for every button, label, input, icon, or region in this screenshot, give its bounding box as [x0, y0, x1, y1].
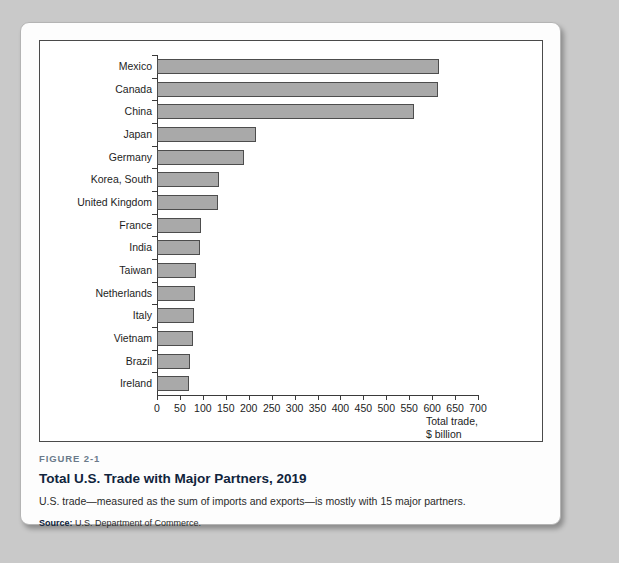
x-axis-tick-label: 100 — [194, 402, 212, 414]
chart-frame: MexicoCanadaChinaJapanGermanyKorea, Sout… — [39, 40, 543, 442]
bar-row: United Kingdom — [40, 191, 542, 214]
bar-category-label: Germany — [40, 152, 152, 163]
bar-row: Mexico — [40, 55, 542, 78]
x-axis-tick — [295, 395, 296, 400]
x-axis-tick — [203, 395, 204, 400]
y-axis-tick — [152, 214, 157, 215]
bar — [157, 172, 219, 187]
bar-chart-plot: MexicoCanadaChinaJapanGermanyKorea, Sout… — [40, 41, 542, 441]
y-axis-tick — [152, 168, 157, 169]
x-axis-tick — [180, 395, 181, 400]
x-axis-tick-label: 600 — [423, 402, 441, 414]
bar — [157, 218, 201, 233]
x-axis-title-line-2: $ billion — [426, 428, 478, 441]
x-axis-tick — [455, 395, 456, 400]
figure-caption: FIGURE 2-1 Total U.S. Trade with Major P… — [39, 453, 543, 528]
bar-category-label: Netherlands — [40, 288, 152, 299]
x-axis-tick — [340, 395, 341, 400]
bar-row: India — [40, 236, 542, 259]
x-axis-tick-label: 700 — [469, 402, 487, 414]
figure-title: Total U.S. Trade with Major Partners, 20… — [39, 471, 543, 486]
x-axis-tick — [386, 395, 387, 400]
bar — [157, 150, 244, 165]
bar — [157, 240, 200, 255]
y-axis-tick — [152, 372, 157, 373]
bar-row: Germany — [40, 146, 542, 169]
bar — [157, 308, 194, 323]
y-axis-tick — [152, 123, 157, 124]
bar-row: Canada — [40, 78, 542, 101]
x-axis-tick — [157, 395, 158, 400]
figure-description: U.S. trade—measured as the sum of import… — [39, 495, 543, 507]
figure-number: FIGURE 2-1 — [39, 453, 543, 464]
x-axis-tick-label: 0 — [154, 402, 160, 414]
bar-row: Ireland — [40, 372, 542, 395]
bar — [157, 331, 193, 346]
bar-category-label: Brazil — [40, 356, 152, 367]
bar — [157, 127, 256, 142]
x-axis-tick-label: 350 — [309, 402, 327, 414]
bar — [157, 82, 438, 97]
bar — [157, 286, 195, 301]
y-axis-tick — [152, 146, 157, 147]
x-axis-tick-label: 250 — [263, 402, 281, 414]
bar-row: Italy — [40, 304, 542, 327]
x-axis-tick-label: 550 — [400, 402, 418, 414]
figure-source-label: Source: — [39, 518, 73, 528]
figure-card: MexicoCanadaChinaJapanGermanyKorea, Sout… — [20, 22, 561, 525]
x-axis-tick — [478, 395, 479, 400]
bar-row: Korea, South — [40, 168, 542, 191]
bar-category-label: Canada — [40, 84, 152, 95]
x-axis-tick — [409, 395, 410, 400]
bar — [157, 354, 190, 369]
bar-row: Vietnam — [40, 327, 542, 350]
x-axis-title-line-1: Total trade, — [426, 415, 478, 428]
x-axis-tick — [226, 395, 227, 400]
x-axis-tick — [432, 395, 433, 400]
bar-row: Brazil — [40, 350, 542, 373]
x-axis-tick — [318, 395, 319, 400]
y-axis-tick — [152, 259, 157, 260]
x-axis-tick-label: 400 — [332, 402, 350, 414]
bar-category-label: United Kingdom — [40, 197, 152, 208]
bar — [157, 263, 196, 278]
bar-category-label: Mexico — [40, 61, 152, 72]
bar-row: Japan — [40, 123, 542, 146]
bar — [157, 59, 439, 74]
bar — [157, 195, 218, 210]
y-axis-tick — [152, 304, 157, 305]
x-axis-tick-label: 200 — [240, 402, 258, 414]
figure-source: Source: U.S. Department of Commerce. — [39, 518, 543, 528]
x-axis-tick-label: 50 — [174, 402, 186, 414]
bar — [157, 376, 189, 391]
x-axis-tick-label: 150 — [217, 402, 235, 414]
bar-category-label: India — [40, 242, 152, 253]
y-axis-tick — [152, 327, 157, 328]
bar-row: France — [40, 214, 542, 237]
bar — [157, 104, 414, 119]
x-axis-title: Total trade, $ billion — [426, 415, 478, 441]
bar-rows: MexicoCanadaChinaJapanGermanyKorea, Sout… — [40, 55, 542, 395]
x-axis-tick-label: 300 — [286, 402, 304, 414]
bar-row: China — [40, 100, 542, 123]
y-axis-tick — [152, 100, 157, 101]
x-axis-tick-label: 450 — [355, 402, 373, 414]
bar-category-label: France — [40, 220, 152, 231]
figure-source-text: U.S. Department of Commerce. — [75, 518, 201, 528]
x-axis-tick — [363, 395, 364, 400]
bar-category-label: Italy — [40, 310, 152, 321]
bar-category-label: Japan — [40, 129, 152, 140]
y-axis-tick — [152, 78, 157, 79]
bar-category-label: Taiwan — [40, 265, 152, 276]
x-axis-tick — [249, 395, 250, 400]
y-axis-tick — [152, 282, 157, 283]
y-axis-tick — [152, 350, 157, 351]
bar-category-label: China — [40, 106, 152, 117]
x-axis-tick — [272, 395, 273, 400]
y-axis-tick — [152, 236, 157, 237]
y-axis-tick — [152, 55, 157, 56]
figure-page: MexicoCanadaChinaJapanGermanyKorea, Sout… — [0, 0, 619, 563]
x-axis-tick-label: 650 — [446, 402, 464, 414]
x-axis-tick-label: 500 — [378, 402, 396, 414]
bar-category-label: Korea, South — [40, 174, 152, 185]
